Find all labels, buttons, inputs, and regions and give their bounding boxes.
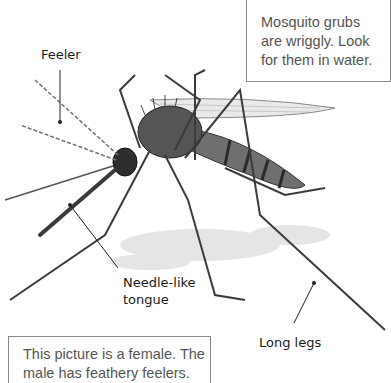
label-long-legs: Long legs xyxy=(259,334,321,351)
callout-grubs-line3: for them in water. xyxy=(261,51,390,70)
callout-mosquito-grubs: Mosquito grubs are wriggly. Look for the… xyxy=(246,0,391,82)
callout-female-note: This picture is a female. The male has f… xyxy=(8,336,211,383)
callout-female-line1: This picture is a female. The xyxy=(23,345,210,364)
mosquito-diagram-page: Feeler Needle-like tongue Long legs Mosq… xyxy=(0,0,391,383)
callout-female-line2: male has feathery feelers. xyxy=(23,364,210,383)
label-needle-like-tongue: Needle-like tongue xyxy=(123,274,196,308)
callout-grubs-line2: are wriggly. Look xyxy=(261,32,390,51)
label-tongue-line2: tongue xyxy=(123,291,196,308)
label-tongue-line1: Needle-like xyxy=(123,274,196,291)
callout-grubs-line1: Mosquito grubs xyxy=(261,13,390,32)
label-feeler: Feeler xyxy=(41,46,81,63)
